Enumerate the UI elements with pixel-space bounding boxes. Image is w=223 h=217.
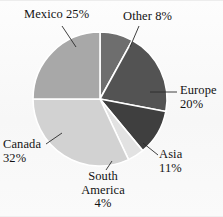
slice-label-asia-name: Asia [159, 147, 182, 161]
slice-label-other-text: Other 8% [123, 9, 172, 23]
slice-label-mexico-text: Mexico 25% [24, 7, 89, 21]
slice-label-south-america-percent: 4% [81, 197, 125, 211]
slice-label-canada: Canada 32% [3, 138, 41, 165]
slice-label-canada-name: Canada [3, 137, 41, 151]
slice-label-europe: Europe 20% [180, 84, 217, 111]
slice-label-asia: Asia 11% [159, 148, 182, 175]
slice-label-europe-percent: 20% [180, 98, 217, 112]
pie-chart: Mexico 25% Other 8% Europe 20% Asia 11% … [0, 0, 223, 217]
slice-label-mexico: Mexico 25% [24, 8, 89, 22]
slice-label-canada-percent: 32% [3, 152, 41, 166]
pie-slice-mexico [33, 32, 100, 99]
slice-label-europe-name: Europe [180, 83, 217, 97]
slice-label-south-america: South America 4% [81, 170, 125, 211]
slice-label-asia-percent: 11% [159, 162, 182, 176]
slice-label-south-america-name-1: South [88, 169, 118, 183]
slice-label-south-america-name-2: America [81, 184, 125, 198]
slice-label-other: Other 8% [123, 10, 172, 24]
